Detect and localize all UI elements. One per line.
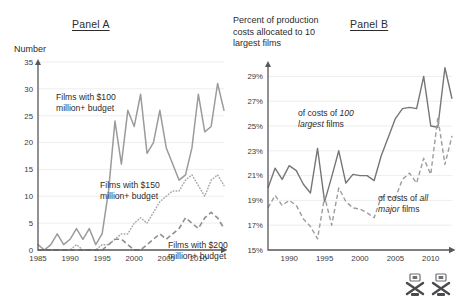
panel-b-axes	[268, 64, 452, 250]
panel-a-title: Panel A	[72, 18, 110, 30]
annotation-text: of costs of	[378, 193, 420, 203]
series-line	[268, 117, 452, 239]
panel-b-gridlines	[268, 76, 452, 250]
y-tick-label: 15	[24, 165, 33, 174]
panel-b-svg: 15%17%19%21%23%25%27%29% 199019952000200…	[236, 58, 458, 268]
y-tick-label: 19%	[247, 196, 263, 205]
x-tick-label: 2000	[126, 254, 144, 263]
panel-a-annotation-150m: Films with $150 million+ budget	[100, 180, 160, 202]
y-tick-label: 23%	[247, 147, 263, 156]
x-tick-label: 1995	[316, 254, 334, 263]
y-tick-label: 5	[29, 219, 34, 228]
panel-a-annotation-100m: Films with $100 million+ budget	[56, 92, 116, 114]
x-tick-label: 1990	[281, 254, 299, 263]
x-tick-label: 2005	[387, 254, 405, 263]
annotation-text: of costs of	[298, 108, 340, 118]
panel-b-y-tick-labels: 15%17%19%21%23%25%27%29%	[247, 72, 263, 255]
annotation-line-1: Films with $100	[56, 92, 116, 103]
crossed-film-reel-icon	[430, 273, 452, 297]
panel-a-gridlines	[38, 62, 224, 250]
y-tick-label: 30	[24, 85, 33, 94]
annotation-line-1: Films with $150	[100, 180, 160, 191]
y-tick-label: 27%	[247, 97, 263, 106]
y-tick-label: 10	[24, 192, 33, 201]
annotation-emphasis: 100	[340, 108, 354, 118]
panel-a: Panel A Number 05101520253035 1985199019…	[0, 0, 230, 303]
annotation-line-1: of costs of all	[378, 193, 428, 204]
y-tick-label: 25	[24, 112, 33, 121]
y-tick-label: 35	[24, 58, 33, 67]
panel-a-axes	[38, 62, 224, 250]
annotation-text: films	[324, 119, 344, 129]
y-tick-label: 25%	[247, 122, 263, 131]
annotation-emphasis: largest	[298, 119, 324, 129]
panel-a-y-axis-caption: Number	[14, 44, 46, 56]
annotation-line-1: Films with $200	[168, 240, 228, 251]
panel-b-plot: 15%17%19%21%23%25%27%29% 199019952000200…	[236, 58, 458, 268]
annotation-text: films	[400, 204, 420, 214]
annotation-line-2: major films	[378, 204, 428, 215]
annotation-line-2: largest films	[298, 119, 354, 130]
x-tick-label: 2000	[351, 254, 369, 263]
annotation-line-2: million+ budget	[168, 251, 228, 262]
annotation-line-2: million+ budget	[56, 103, 116, 114]
panel-b: Panel B Percent of production costs allo…	[228, 0, 459, 303]
annotation-line-1: of costs of 100	[298, 108, 354, 119]
x-tick-label: 1995	[93, 254, 111, 263]
x-tick-label: 1990	[61, 254, 79, 263]
panel-b-title: Panel B	[350, 18, 388, 30]
y-tick-label: 21%	[247, 171, 263, 180]
x-tick-label: 1985	[29, 254, 47, 263]
watermark-logos	[404, 272, 456, 298]
panel-b-x-axis-arrow	[449, 247, 456, 253]
annotation-emphasis: major	[378, 204, 400, 214]
x-tick-label: 2010	[422, 254, 440, 263]
series-line	[268, 68, 452, 202]
y-tick-label: 20	[24, 138, 33, 147]
annotation-emphasis: all	[420, 193, 429, 203]
y-tick-label: 17%	[247, 221, 263, 230]
panel-b-y-axis-caption: Percent of production costs allocated to…	[233, 15, 341, 50]
panel-a-plot: 05101520253035 198519901995200020052010	[12, 56, 230, 268]
crossed-film-reel-icon	[404, 273, 426, 297]
panel-a-svg: 05101520253035 198519901995200020052010	[12, 56, 230, 268]
annotation-line-2: million+ budget	[100, 191, 160, 202]
panel-a-y-tick-labels: 05101520253035	[24, 58, 33, 255]
y-tick-label: 15%	[247, 246, 263, 255]
panel-b-annotation-all-major: of costs of all major films	[378, 193, 428, 215]
panel-a-annotation-200m: Films with $200 million+ budget	[168, 240, 228, 262]
panel-b-x-tick-labels: 19901995200020052010	[281, 254, 441, 263]
y-tick-label: 29%	[247, 72, 263, 81]
panel-b-y-axis-arrow	[265, 61, 271, 67]
panel-b-annotation-100-largest: of costs of 100 largest films	[298, 108, 354, 130]
